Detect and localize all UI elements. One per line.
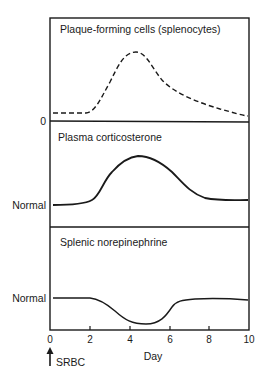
x-tick-0: 0 <box>47 334 53 345</box>
srbc-annotation: SRBC <box>47 347 86 368</box>
x-tick-6: 6 <box>167 334 173 345</box>
arrowhead-icon <box>47 347 54 354</box>
chart-figure: Plaque-forming cells (splenocytes) Plasm… <box>0 0 267 379</box>
x-axis-label: Day <box>144 350 163 362</box>
curve-plaque-forming-cells <box>53 52 248 116</box>
x-tick-4: 4 <box>127 334 133 345</box>
panel-title-plasma-corticosterone: Plasma corticosterone <box>58 131 162 143</box>
y-ref-label-zero: 0 <box>40 115 46 127</box>
panel-title-splenic-norepinephrine: Splenic norepinephrine <box>60 236 168 248</box>
y-ref-label-normal-corticosterone: Normal <box>12 199 46 211</box>
panel-divider-1 <box>50 121 249 122</box>
x-tick-2: 2 <box>87 334 93 345</box>
panel-title-plaque-forming-cells: Plaque-forming cells (splenocytes) <box>60 23 220 35</box>
y-ref-label-normal-norepinephrine: Normal <box>12 292 46 304</box>
x-tick-10: 10 <box>243 334 255 345</box>
curve-plasma-corticosterone <box>53 156 248 205</box>
srbc-label: SRBC <box>56 356 86 368</box>
curve-splenic-norepinephrine <box>53 298 248 324</box>
x-tick-8: 8 <box>206 334 212 345</box>
chart-frame <box>50 18 249 330</box>
